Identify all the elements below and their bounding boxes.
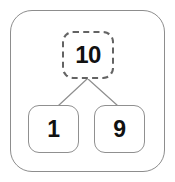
part-node-left-value: 1 — [47, 118, 59, 141]
part-node-right[interactable]: 9 — [94, 105, 145, 153]
whole-node-value: 10 — [75, 43, 101, 67]
part-node-right-value: 9 — [113, 118, 125, 141]
part-node-left[interactable]: 1 — [28, 105, 79, 153]
whole-node[interactable]: 10 — [62, 31, 114, 79]
number-bond-diagram: 10 1 9 — [0, 0, 175, 182]
